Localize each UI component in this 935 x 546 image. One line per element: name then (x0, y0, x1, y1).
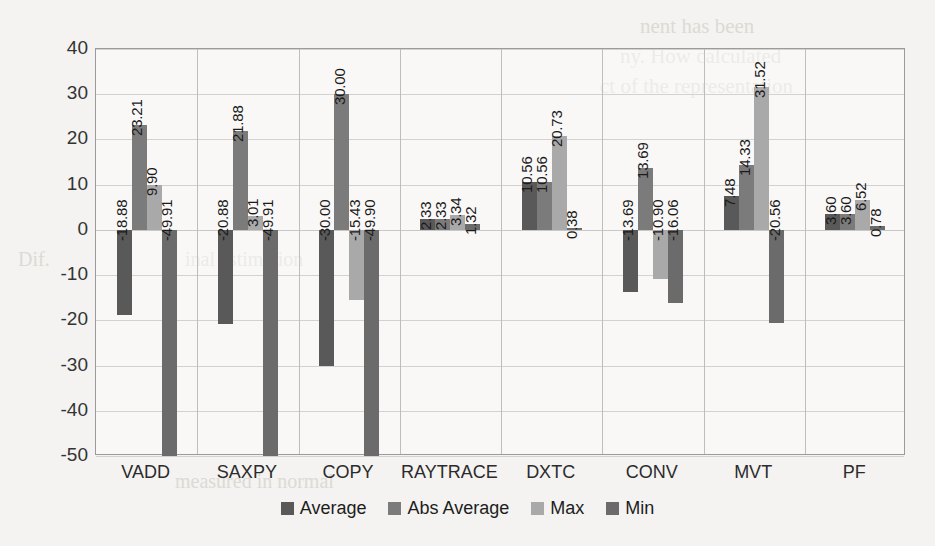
gridline (96, 366, 904, 367)
bar-value-label: 31.52 (751, 62, 768, 99)
bar-value-label: -49.91 (259, 200, 276, 241)
bar (218, 230, 233, 324)
bar-value-label: 10.56 (533, 157, 550, 194)
y-axis-tick-label: 10 (0, 174, 88, 193)
x-axis-tick-label: PF (804, 462, 905, 483)
bar-value-label: -13.69 (619, 200, 636, 241)
bar-value-label: -20.88 (214, 200, 231, 241)
y-axis-tick-label: -50 (0, 445, 88, 464)
bar-value-label: 23.21 (128, 99, 145, 136)
bar (364, 230, 379, 456)
bar (162, 230, 177, 456)
legend-swatch-icon (388, 502, 401, 515)
category-separator (400, 49, 401, 454)
gridline (96, 185, 904, 186)
x-axis-tick-label: MVT (703, 462, 804, 483)
legend-label: Max (550, 498, 584, 519)
y-axis-tick-label: 40 (0, 38, 88, 57)
x-axis-tick-label: VADD (95, 462, 196, 483)
bar-value-label: -49.91 (158, 200, 175, 241)
legend-swatch-icon (281, 502, 294, 515)
y-axis-tick-label: -30 (0, 355, 88, 374)
bar-value-label: 20.73 (548, 111, 565, 148)
x-axis-tick-label: SAXPY (196, 462, 297, 483)
bar-value-label: 0.78 (867, 209, 884, 237)
category-separator (501, 49, 502, 454)
y-axis-tick-label: 0 (0, 219, 88, 238)
category-separator (704, 49, 705, 454)
bar-value-label: -16.06 (664, 200, 681, 241)
legend-item[interactable]: Average (281, 498, 367, 519)
gridline (96, 456, 904, 457)
chart-legend: AverageAbs AverageMaxMin (0, 498, 935, 519)
bar-value-label: -18.88 (113, 200, 130, 241)
bar-value-label: 13.69 (634, 142, 651, 179)
category-separator (299, 49, 300, 454)
bar-value-label: -30.00 (316, 200, 333, 241)
bar-value-label: 0.38 (563, 211, 580, 239)
bar (769, 230, 784, 323)
bar-value-label: 1.32 (462, 207, 479, 235)
x-axis-tick-label: CONV (601, 462, 702, 483)
legend-swatch-icon (606, 502, 619, 515)
plot-area: -18.8823.219.90-49.91-20.8821.883.01-49.… (95, 48, 905, 455)
bar-value-label: 6.52 (852, 183, 869, 211)
y-axis-tick-label: 20 (0, 128, 88, 147)
bar (319, 230, 334, 366)
category-separator (602, 49, 603, 454)
y-axis-tick-label: 30 (0, 83, 88, 102)
bar (117, 230, 132, 315)
legend-item[interactable]: Abs Average (388, 498, 509, 519)
bar (263, 230, 278, 456)
legend-item[interactable]: Min (606, 498, 654, 519)
gridline (96, 94, 904, 95)
category-separator (805, 49, 806, 454)
bar-value-label: -49.90 (361, 200, 378, 241)
legend-label: Abs Average (407, 498, 509, 519)
category-separator (197, 49, 198, 454)
chart-figure: Percentage Error 403020100-10-20-30-40-5… (0, 0, 935, 546)
gridline (96, 49, 904, 50)
y-axis-tick-label: -20 (0, 309, 88, 328)
legend-label: Average (300, 498, 367, 519)
bar-value-label: 9.90 (143, 168, 160, 196)
x-axis-tick-label: RAYTRACE (399, 462, 500, 483)
x-axis-tick-label: COPY (298, 462, 399, 483)
bar-value-label: 7.48 (721, 179, 738, 207)
legend-label: Min (625, 498, 654, 519)
y-axis-tick-label: -10 (0, 264, 88, 283)
legend-item[interactable]: Max (531, 498, 584, 519)
x-axis-tick-label: DXTC (500, 462, 601, 483)
bar-value-label: 14.33 (736, 140, 753, 177)
gridline (96, 139, 904, 140)
bar-value-label: 30.00 (331, 69, 348, 106)
bar-value-label: 21.88 (229, 105, 246, 142)
bar-value-label: -20.56 (766, 200, 783, 241)
legend-swatch-icon (531, 502, 544, 515)
gridline (96, 411, 904, 412)
y-axis-tick-label: -40 (0, 400, 88, 419)
